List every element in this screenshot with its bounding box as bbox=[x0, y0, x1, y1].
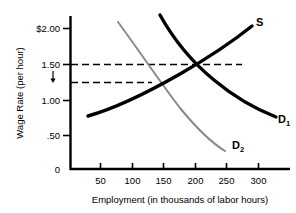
curve-label-d1-text: D bbox=[278, 113, 286, 125]
curve-label-d1-subscript: 1 bbox=[286, 119, 290, 128]
labor-market-supply-demand-chart: $2.00 1.50 1.00 .50 0 50 100 150 200 250… bbox=[0, 0, 296, 213]
curve-label-s: S bbox=[256, 16, 263, 28]
x-tick-label-100: 100 bbox=[125, 175, 141, 186]
x-tick-label-200: 200 bbox=[188, 175, 204, 186]
x-axis-title: Employment (in thousands of labor hours) bbox=[92, 194, 268, 205]
curve-label-s-text: S bbox=[256, 16, 263, 28]
y-axis-title: Wage Rate (per hour) bbox=[14, 47, 25, 139]
y-tick-label-0: 0 bbox=[55, 164, 60, 175]
curve-label-d2-subscript: 2 bbox=[240, 145, 244, 154]
y-tick-label-150: 1.50 bbox=[42, 59, 61, 70]
x-tick-label-300: 300 bbox=[251, 175, 267, 186]
x-tick-label-50: 50 bbox=[95, 175, 106, 186]
curve-label-d2-text: D bbox=[232, 139, 240, 151]
x-tick-label-250: 250 bbox=[219, 175, 235, 186]
x-tick-label-150: 150 bbox=[156, 175, 172, 186]
y-tick-label-50: .50 bbox=[47, 130, 60, 141]
y-tick-label-100: 1.00 bbox=[42, 95, 61, 106]
y-tick-label-200: $2.00 bbox=[36, 23, 60, 34]
